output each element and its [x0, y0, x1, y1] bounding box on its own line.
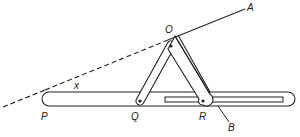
line-OA — [168, 9, 245, 40]
bar-slot — [165, 97, 283, 102]
pivot-R — [201, 99, 204, 102]
leader-line-B — [218, 106, 229, 122]
linkage-diagram: O A P Q R B x — [0, 0, 300, 137]
label-Q: Q — [131, 111, 139, 122]
pivot-Q — [138, 99, 141, 102]
pivot-O — [169, 44, 172, 47]
label-P: P — [41, 111, 48, 122]
label-R: R — [199, 111, 206, 122]
label-A: A — [246, 2, 254, 13]
dashed-extension-line — [3, 90, 45, 107]
label-O: O — [165, 24, 173, 35]
label-angle-x: x — [73, 80, 80, 91]
label-B: B — [228, 122, 235, 133]
